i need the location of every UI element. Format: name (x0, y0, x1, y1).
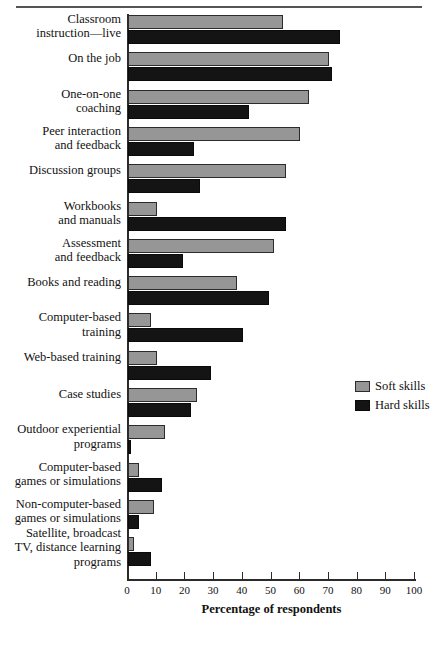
x-axis-title: Percentage of respondents (127, 602, 416, 617)
x-tick-label-90: 90 (370, 584, 400, 596)
x-tick-label-40: 40 (227, 584, 257, 596)
bar-soft-skills (128, 127, 300, 141)
x-axis-line (127, 579, 416, 581)
category-label: Peer interactionand feedback (0, 124, 121, 152)
x-tick-80 (357, 572, 358, 580)
bar-soft-skills (128, 463, 139, 477)
x-tick-100 (414, 572, 415, 580)
x-tick-label-70: 70 (313, 584, 343, 596)
x-tick-10 (156, 572, 157, 580)
x-tick-90 (385, 572, 386, 580)
category-label: Assessmentand feedback (0, 236, 121, 264)
bar-soft-skills (128, 313, 151, 327)
bar-row: On the job (127, 51, 414, 87)
bar-hard-skills (128, 515, 139, 529)
bar-row: Discussion groups (127, 163, 414, 199)
bar-row: Workbooksand manuals (127, 201, 414, 237)
bar-hard-skills (128, 440, 131, 454)
bar-row: Computer-basedgames or simulations (127, 462, 414, 498)
x-tick-label-80: 80 (342, 584, 372, 596)
bar-row: Classroominstruction—live (127, 14, 414, 50)
bar-row: Computer-basedtraining (127, 312, 414, 348)
bar-soft-skills (128, 388, 197, 402)
bar-soft-skills (128, 239, 274, 253)
bar-soft-skills (128, 15, 283, 29)
bar-soft-skills (128, 500, 154, 514)
bar-row: Peer interactionand feedback (127, 126, 414, 162)
legend-swatch-hard-skills-icon (355, 400, 370, 411)
x-tick-label-0: 0 (112, 584, 142, 596)
bar-row: Satellite, broadcastTV, distance learnin… (127, 536, 414, 572)
bar-hard-skills (128, 366, 211, 380)
category-label: One-on-onecoaching (0, 87, 121, 115)
x-tick-label-20: 20 (169, 584, 199, 596)
legend-label-hard-skills: Hard skills (375, 397, 430, 413)
bar-soft-skills (128, 52, 329, 66)
bar-hard-skills (128, 328, 243, 342)
bar-row: Outdoor experientialprograms (127, 424, 414, 460)
bar-hard-skills (128, 105, 249, 119)
category-label: Discussion groups (0, 163, 121, 177)
bar-hard-skills (128, 291, 269, 305)
x-tick-0 (127, 572, 128, 580)
x-tick-40 (242, 572, 243, 580)
bar-row: Non-computer-basedgames or simulations (127, 499, 414, 535)
category-label: Satellite, broadcastTV, distance learnin… (0, 526, 121, 569)
category-label: On the job (0, 51, 121, 65)
plot-area: 0102030405060708090100 Classroominstruct… (127, 14, 414, 579)
category-label: Classroominstruction—live (0, 12, 121, 40)
bar-row: Assessmentand feedback (127, 238, 414, 274)
x-tick-20 (184, 572, 185, 580)
category-label: Workbooksand manuals (0, 199, 121, 227)
bar-soft-skills (128, 537, 134, 551)
bar-hard-skills (128, 254, 183, 268)
bar-hard-skills (128, 552, 151, 566)
bar-row: Books and reading (127, 275, 414, 311)
bar-soft-skills (128, 276, 237, 290)
x-tick-30 (213, 572, 214, 580)
x-tick-label-30: 30 (198, 584, 228, 596)
legend-swatch-soft-skills-icon (355, 381, 370, 392)
bar-hard-skills (128, 179, 200, 193)
category-label: Non-computer-basedgames or simulations (0, 497, 121, 525)
x-tick-60 (299, 572, 300, 580)
legend-item-hard-skills: Hard skills (355, 397, 430, 413)
bar-soft-skills (128, 202, 157, 216)
chart-legend: Soft skills Hard skills (355, 378, 430, 416)
category-label: Computer-basedtraining (0, 310, 121, 338)
bar-hard-skills (128, 67, 332, 81)
x-tick-70 (328, 572, 329, 580)
category-label: Computer-basedgames or simulations (0, 460, 121, 488)
legend-label-soft-skills: Soft skills (375, 378, 425, 394)
bar-hard-skills (128, 30, 340, 44)
x-tick-label-60: 60 (284, 584, 314, 596)
x-tick-label-100: 100 (399, 584, 429, 596)
x-tick-50 (271, 572, 272, 580)
bar-hard-skills (128, 478, 162, 492)
x-tick-label-10: 10 (141, 584, 171, 596)
bar-soft-skills (128, 425, 165, 439)
x-tick-label-50: 50 (256, 584, 286, 596)
category-label: Books and reading (0, 275, 121, 289)
category-label: Outdoor experientialprograms (0, 422, 121, 450)
category-label: Case studies (0, 387, 121, 401)
top-divider-rule (16, 6, 422, 8)
bar-row: One-on-onecoaching (127, 89, 414, 125)
bar-hard-skills (128, 403, 191, 417)
bar-soft-skills (128, 90, 309, 104)
category-label: Web-based training (0, 350, 121, 364)
bar-hard-skills (128, 142, 194, 156)
bar-chart: 0102030405060708090100 Classroominstruct… (0, 0, 438, 645)
bar-soft-skills (128, 164, 286, 178)
bar-soft-skills (128, 351, 157, 365)
legend-item-soft-skills: Soft skills (355, 378, 430, 394)
bar-hard-skills (128, 217, 286, 231)
